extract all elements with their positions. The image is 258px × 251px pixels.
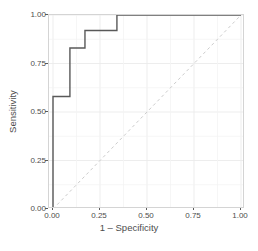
y-tick-label-4: 1.00	[22, 10, 46, 19]
y-tick-label-1: 0.25	[22, 155, 46, 164]
gridlines	[49, 15, 244, 208]
x-tick-label-1: 0.25	[91, 211, 107, 220]
x-tick-label-2: 0.50	[138, 211, 154, 220]
y-tick-label-2: 0.50	[22, 107, 46, 116]
plot-panel	[48, 14, 244, 208]
y-tick-label-3: 0.75	[22, 58, 46, 67]
x-tick-label-3: 0.75	[185, 211, 201, 220]
y-axis-title: Sensitivity	[7, 52, 18, 172]
x-axis-title: 1 – Specificity	[0, 222, 258, 233]
plot-area-svg	[49, 15, 244, 208]
x-tick-label-0: 0.00	[44, 211, 60, 220]
y-tick-label-0: 0.00	[22, 204, 46, 213]
roc-curve-chart: 0.00 0.25 0.50 0.75 1.00 0.00 0.25 0.50 …	[0, 0, 258, 251]
x-tick-label-4: 1.00	[232, 211, 248, 220]
y-tick-mark-0	[45, 208, 48, 209]
